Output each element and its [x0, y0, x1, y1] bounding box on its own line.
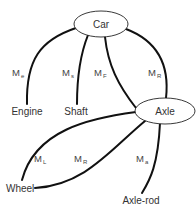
- svg-text:M: M: [62, 67, 70, 78]
- node-shaft-label: Shaft: [64, 106, 88, 117]
- edge-car-engine: [27, 28, 76, 104]
- svg-text:M: M: [12, 67, 20, 78]
- svg-text:M: M: [148, 67, 156, 78]
- edge-axle-wheel-l: [22, 112, 136, 180]
- svg-text:R: R: [83, 159, 88, 165]
- svg-text:L: L: [43, 159, 47, 165]
- edge-label-ml: M L: [34, 153, 47, 165]
- edge-label-mf: M F: [94, 67, 107, 79]
- edge-axle-wheel-r: [35, 121, 145, 188]
- svg-text:M: M: [136, 153, 144, 164]
- node-car-label: Car: [93, 19, 110, 30]
- node-axlerod-label: Axle-rod: [122, 195, 159, 206]
- node-wheel-label: Wheel: [6, 183, 34, 194]
- diagram-canvas: Car Axle Engine Shaft Wheel Axle-rod M e…: [0, 0, 196, 207]
- node-engine-label: Engine: [11, 106, 43, 117]
- svg-text:e: e: [21, 73, 25, 79]
- edge-car-shaft: [77, 35, 88, 104]
- edge-label-ma: M a: [136, 153, 149, 165]
- edge-label-me: M e: [12, 67, 25, 79]
- edge-label-mr-top: M R: [148, 67, 162, 79]
- svg-text:M: M: [74, 153, 82, 164]
- edge-label-mr-bottom: M R: [74, 153, 88, 165]
- edge-axle-axlerod: [142, 123, 160, 193]
- node-axle-label: Axle: [155, 106, 175, 117]
- svg-text:M: M: [94, 67, 102, 78]
- edge-car-axle-f: [105, 37, 136, 108]
- svg-text:R: R: [157, 73, 162, 79]
- svg-text:a: a: [145, 159, 149, 165]
- edge-car-axle-r: [126, 29, 167, 98]
- svg-text:M: M: [34, 153, 42, 164]
- svg-text:s: s: [71, 73, 74, 79]
- edge-label-ms: M s: [62, 67, 74, 79]
- svg-text:F: F: [103, 73, 107, 79]
